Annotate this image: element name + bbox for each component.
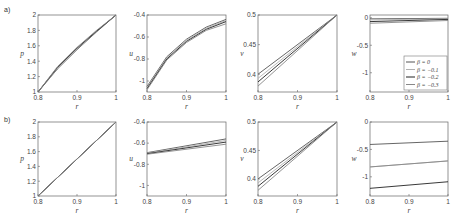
x-axis-label: r — [185, 102, 188, 111]
x-axis-label: r — [76, 206, 79, 215]
panel-b-v: 0.80.910.40.450.5rv — [240, 118, 339, 215]
x-tick-label: 0.8 — [253, 198, 262, 205]
y-tick-label: 1.6 — [27, 148, 36, 155]
axes-frame — [147, 122, 226, 196]
x-tick-label: 0.9 — [182, 94, 191, 101]
y-tick-label: -1 — [362, 173, 368, 180]
panel-a-v: 0.80.910.40.450.5rv — [240, 11, 339, 111]
y-tick-label: 2 — [32, 11, 36, 18]
y-axis-label: w — [351, 49, 356, 58]
legend: β = 0β = −0.1β = −0.2β = −0.3 — [404, 56, 447, 90]
x-axis-label: r — [76, 102, 79, 111]
x-tick-label: 0.9 — [72, 94, 81, 101]
row-label-b: b) — [4, 116, 10, 124]
y-tick-label: -1 — [362, 69, 368, 76]
x-tick-label: 0.9 — [404, 94, 413, 101]
x-axis-label: r — [296, 102, 299, 111]
y-axis-label: v — [240, 154, 244, 163]
y-tick-label: 1 — [32, 192, 36, 199]
legend-entry: β = −0.2 — [416, 74, 439, 80]
x-tick-label: 0.8 — [253, 94, 262, 101]
axes-frame — [258, 122, 337, 196]
y-tick-label: 0.4 — [247, 175, 256, 182]
x-tick-label: 0.8 — [142, 94, 151, 101]
y-axis-label: u — [129, 154, 133, 163]
axes-frame — [258, 15, 337, 92]
legend-entry: β = −0.3 — [416, 82, 439, 88]
y-tick-label: 1.4 — [27, 163, 36, 170]
y-tick-label: -0.4 — [134, 11, 146, 18]
y-tick-label: -0.8 — [134, 161, 146, 168]
y-tick-label: 0.45 — [243, 147, 256, 154]
y-tick-label: 0 — [364, 118, 368, 125]
x-axis-label: r — [296, 206, 299, 215]
y-axis-label: w — [351, 154, 356, 163]
panel-b-p: 0.80.9111.21.41.61.82rp — [19, 118, 118, 215]
x-tick-label: 0.9 — [182, 198, 191, 205]
x-tick-label: 1 — [335, 198, 339, 205]
x-tick-label: 1 — [114, 94, 118, 101]
y-tick-label: -0.4 — [134, 118, 146, 125]
y-tick-label: -0.6 — [134, 33, 146, 40]
x-tick-label: 1 — [224, 94, 228, 101]
row-label-a: a) — [4, 6, 10, 14]
axes-frame — [38, 15, 116, 92]
y-axis-label: u — [129, 49, 133, 58]
x-tick-label: 0.9 — [404, 198, 413, 205]
panel-b-u: 0.80.91-1-0.8-0.6-0.4ru — [129, 118, 228, 215]
panel-b-w: 0.80.91-1-0.50rw — [351, 118, 450, 215]
y-tick-label: -1 — [139, 182, 145, 189]
y-tick-label: 0.45 — [243, 41, 256, 48]
x-tick-label: 0.9 — [72, 198, 81, 205]
x-tick-label: 1 — [114, 198, 118, 205]
y-tick-label: -0.5 — [357, 146, 369, 153]
y-tick-label: -1 — [139, 77, 145, 84]
y-tick-label: -0.8 — [134, 55, 146, 62]
y-tick-label: 1.8 — [27, 27, 36, 34]
y-axis-label: p — [19, 154, 24, 163]
x-axis-label: r — [408, 206, 411, 215]
y-tick-label: 2 — [32, 118, 36, 125]
panel-a-u: 0.80.91-1-0.8-0.6-0.4ru — [129, 11, 228, 111]
x-tick-label: 0.8 — [365, 94, 374, 101]
x-tick-label: 1 — [446, 94, 450, 101]
panels-container: 0.80.9111.21.41.61.82rp0.80.91-1-0.8-0.6… — [19, 11, 450, 215]
y-tick-label: 0 — [364, 14, 368, 21]
y-tick-label: 1.6 — [27, 42, 36, 49]
y-tick-label: 1 — [32, 88, 36, 95]
y-axis-label: p — [19, 49, 24, 58]
y-tick-label: 1.8 — [27, 133, 36, 140]
y-tick-label: -0.5 — [357, 42, 369, 49]
figure: a) b) 0.80.9111.21.41.61.82rp0.80.91-1-0… — [0, 0, 461, 223]
y-tick-label: 0.4 — [247, 71, 256, 78]
panel-a-p: 0.80.9111.21.41.61.82rp — [19, 11, 118, 111]
y-tick-label: 1.2 — [27, 178, 36, 185]
x-axis-label: r — [185, 206, 188, 215]
x-tick-label: 0.9 — [293, 94, 302, 101]
x-axis-label: r — [408, 102, 411, 111]
legend-entry: β = −0.1 — [416, 67, 439, 73]
y-tick-label: 1.4 — [27, 58, 36, 65]
y-tick-label: 0.5 — [247, 118, 256, 125]
x-tick-label: 1 — [224, 198, 228, 205]
panel-a-w: 0.80.91-1-0.50rwβ = 0β = −0.1β = −0.2β =… — [351, 14, 450, 111]
y-axis-label: v — [240, 49, 244, 58]
x-tick-label: 1 — [446, 198, 450, 205]
y-tick-label: 1.2 — [27, 73, 36, 80]
y-tick-label: 0.5 — [247, 11, 256, 18]
x-tick-label: 0.8 — [142, 198, 151, 205]
legend-entry: β = 0 — [416, 59, 430, 65]
x-tick-label: 0.9 — [293, 198, 302, 205]
x-tick-label: 0.8 — [365, 198, 374, 205]
x-tick-label: 1 — [335, 94, 339, 101]
y-tick-label: -0.6 — [134, 139, 146, 146]
